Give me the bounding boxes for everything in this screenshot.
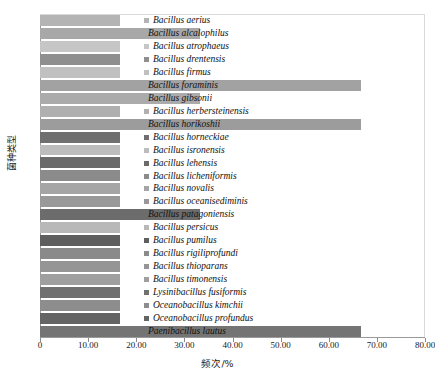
bar-row (40, 299, 425, 312)
bar-row (40, 40, 425, 53)
x-tick-label: 80.00 (415, 340, 435, 350)
bar (40, 41, 120, 52)
bar (40, 209, 200, 220)
bar-row (40, 144, 425, 157)
bar-row (40, 325, 425, 338)
bar-row (40, 118, 425, 131)
bar (40, 300, 120, 311)
bar (40, 248, 120, 259)
bar-row (40, 221, 425, 234)
x-tick-label: 50.00 (271, 340, 291, 350)
bar-row (40, 105, 425, 118)
bar-rows (40, 14, 425, 338)
x-tick-label: 20.00 (126, 340, 146, 350)
bar-row (40, 169, 425, 182)
bar-row (40, 66, 425, 79)
x-axis-title: 频次/% (0, 356, 435, 370)
bar (40, 183, 120, 194)
bar-row (40, 92, 425, 105)
bar-row (40, 53, 425, 66)
x-tick-label: 40.00 (222, 340, 242, 350)
bar (40, 313, 120, 324)
bar (40, 145, 120, 156)
x-axis-tick-labels: 010.0020.0030.0040.0050.0060.0070.0080.0… (0, 340, 435, 354)
bar-row (40, 27, 425, 40)
bar (40, 54, 120, 65)
bar (40, 15, 120, 26)
bar (40, 28, 200, 39)
bar (40, 222, 120, 233)
x-tick-label: 70.00 (367, 340, 387, 350)
bar (40, 287, 120, 298)
bar (40, 106, 120, 117)
bar (40, 235, 120, 246)
bar-row (40, 156, 425, 169)
bar (40, 67, 120, 78)
bar-row (40, 208, 425, 221)
bar (40, 93, 200, 104)
bar-row (40, 312, 425, 325)
y-axis-title: 菌种类型 (5, 118, 18, 188)
x-tick-label: 60.00 (319, 340, 339, 350)
bar (40, 80, 361, 91)
bar-row (40, 131, 425, 144)
bar-row (40, 286, 425, 299)
plot-area: Bacillus aeriusBacillus alcalophilusBaci… (40, 14, 425, 338)
bar-row (40, 195, 425, 208)
bar (40, 196, 120, 207)
bar (40, 119, 361, 130)
x-tick-label: 30.00 (174, 340, 194, 350)
bar-row (40, 79, 425, 92)
bar-row (40, 14, 425, 27)
bar-row (40, 247, 425, 260)
bar-row (40, 260, 425, 273)
bar-row (40, 234, 425, 247)
bar (40, 170, 120, 181)
bar (40, 261, 120, 272)
x-tick-label: 0 (38, 340, 43, 350)
bar-row (40, 182, 425, 195)
bar (40, 132, 120, 143)
bar-chart: 菌种类型 Bacillus aeriusBacillus alcalophilu… (0, 0, 435, 384)
bar (40, 157, 120, 168)
bar-row (40, 273, 425, 286)
bar (40, 326, 361, 337)
bar (40, 274, 120, 285)
x-tick-label: 10.00 (78, 340, 98, 350)
